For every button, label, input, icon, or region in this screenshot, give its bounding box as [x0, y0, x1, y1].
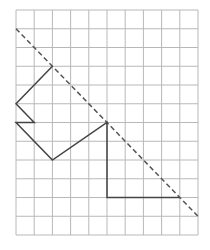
grid-diagram — [0, 0, 210, 250]
half-shape — [16, 66, 180, 197]
